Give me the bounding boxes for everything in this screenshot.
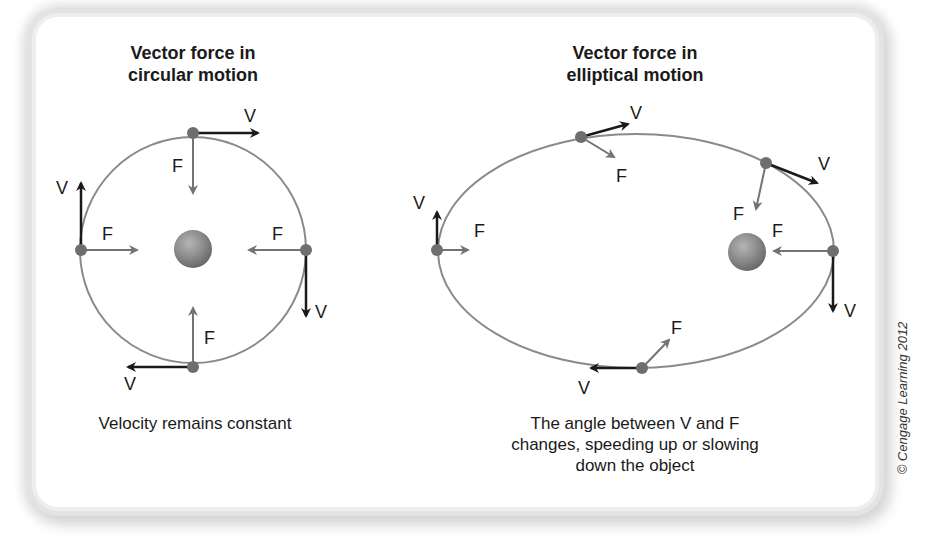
caption-line: down the object (480, 455, 790, 476)
force-label: F (102, 224, 113, 244)
title-line: Vector force in (525, 42, 745, 64)
velocity-label: V (244, 106, 256, 126)
orbiting-body-dot (187, 127, 199, 139)
force-label: F (772, 221, 783, 241)
force-label: F (172, 156, 183, 176)
orbiting-body-dot (760, 157, 772, 169)
force-label: F (616, 166, 627, 186)
velocity-label: V (578, 378, 590, 398)
title-line: Vector force in (83, 42, 303, 64)
title-line: circular motion (83, 64, 303, 86)
velocity-label: V (413, 193, 425, 213)
velocity-label: V (818, 154, 830, 174)
title-line: elliptical motion (525, 64, 745, 86)
orbiting-body-dot (187, 361, 199, 373)
force-arrow-icon (756, 163, 766, 209)
orbiting-body-dot (636, 362, 648, 374)
elliptical-motion-caption: The angle between V and F changes, speed… (480, 413, 790, 476)
orbiting-body-dot (300, 244, 312, 256)
caption-line: The angle between V and F (480, 413, 790, 434)
circular-motion-caption: Velocity remains constant (60, 413, 330, 434)
force-label: F (272, 224, 283, 244)
copyright-credit: © Cengage Learning 2012 (895, 322, 910, 475)
force-label: F (204, 328, 215, 348)
force-label: F (474, 221, 485, 241)
velocity-arrow-icon (766, 163, 817, 183)
orbiting-body-dot (75, 244, 87, 256)
elliptical-motion-title: Vector force in elliptical motion (525, 42, 745, 86)
force-label: F (671, 318, 682, 338)
caption-line: changes, speeding up or slowing (480, 434, 790, 455)
velocity-label: V (630, 103, 642, 123)
force-label: F (733, 204, 744, 224)
velocity-label: V (56, 178, 68, 198)
central-body (174, 230, 212, 268)
circular-orbit-diagram: V F V F V F V F (56, 106, 327, 394)
velocity-label: V (315, 302, 327, 322)
velocity-label: V (124, 374, 136, 394)
orbiting-body-dot (827, 245, 839, 257)
velocity-label: V (844, 301, 856, 321)
orbiting-body-dot (431, 244, 443, 256)
orbiting-body-dot (575, 131, 587, 143)
elliptical-orbit-diagram: V F V F V F V F V F (413, 103, 856, 398)
circular-motion-title: Vector force in circular motion (83, 42, 303, 86)
central-body (728, 233, 766, 271)
